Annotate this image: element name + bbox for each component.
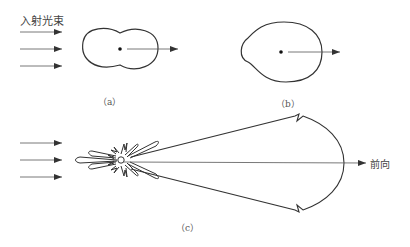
caption-c: （c） [176,221,199,234]
incident-arrows-a [20,32,62,66]
forward-label: 前向 [370,156,390,171]
side-lobes-c [76,141,159,178]
caption-b: （b） [276,97,300,110]
caption-a: （a） [98,95,121,108]
particle-c [118,157,124,163]
particle-dot-a [118,47,122,51]
particle-dot-b [279,50,283,54]
scattering-diagram [0,0,410,247]
forward-axis-c [124,162,366,163]
incident-arrows-c [20,143,62,177]
incident-beam-label: 入射光束 [20,12,64,28]
